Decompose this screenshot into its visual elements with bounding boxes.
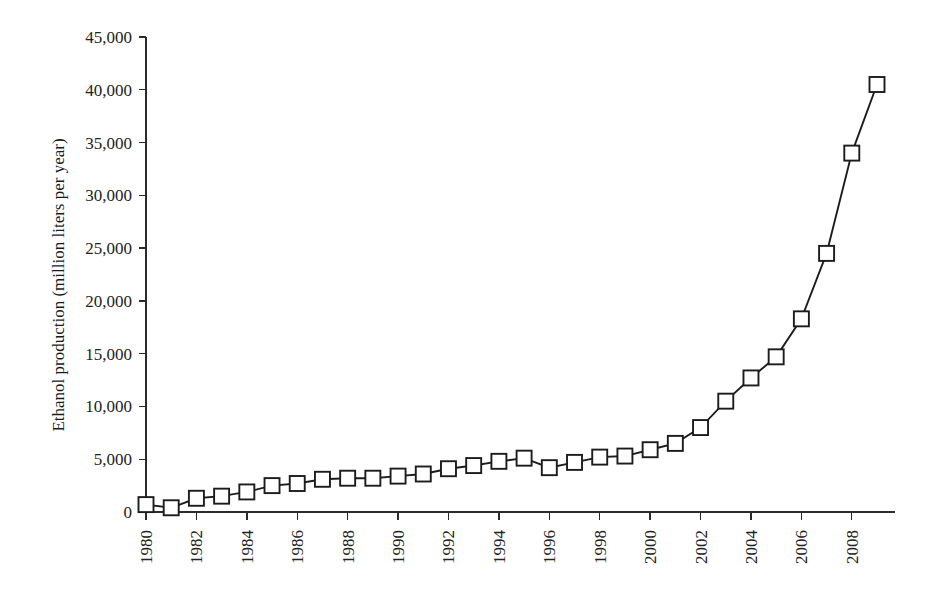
x-tick-label: 2006	[792, 530, 811, 564]
y-tick-label: 25,000	[85, 239, 132, 258]
x-tick-label: 1988	[339, 530, 358, 564]
data-point-marker	[870, 77, 885, 92]
x-tick-label: 1992	[439, 530, 458, 564]
data-point-marker	[239, 484, 254, 499]
x-tick-label: 1986	[288, 530, 307, 564]
data-point-marker	[139, 497, 154, 512]
y-tick-label: 40,000	[85, 81, 132, 100]
data-point-marker	[668, 436, 683, 451]
y-axis-title: Ethanol production (million liters per y…	[49, 138, 68, 431]
y-tick-label: 5,000	[94, 450, 132, 469]
data-point-marker	[643, 442, 658, 457]
data-point-marker	[794, 311, 809, 326]
x-tick-label: 1982	[187, 530, 206, 564]
x-tick-label: 2008	[843, 530, 862, 564]
data-series-line	[146, 85, 877, 508]
data-point-marker	[819, 246, 834, 261]
x-tick-label: 1998	[591, 530, 610, 564]
data-point-marker	[743, 370, 758, 385]
y-tick-label: 20,000	[85, 292, 132, 311]
y-axis-ticks: 05,00010,00015,00020,00025,00030,00035,0…	[85, 28, 146, 522]
data-point-marker	[592, 450, 607, 465]
x-tick-label: 2000	[641, 530, 660, 564]
y-tick-label: 0	[124, 503, 133, 522]
data-point-marker	[214, 489, 229, 504]
x-tick-label: 1996	[540, 530, 559, 564]
data-point-marker	[466, 458, 481, 473]
data-point-marker	[844, 146, 859, 161]
y-tick-label: 10,000	[85, 397, 132, 416]
x-tick-label: 2002	[692, 530, 711, 564]
data-point-marker	[769, 349, 784, 364]
data-point-marker	[189, 491, 204, 506]
data-point-marker	[617, 449, 632, 464]
data-point-marker	[391, 469, 406, 484]
x-tick-label: 1990	[389, 530, 408, 564]
data-point-marker	[365, 471, 380, 486]
y-tick-label: 15,000	[85, 345, 132, 364]
data-point-marker	[164, 500, 179, 515]
data-point-marker	[416, 467, 431, 482]
x-tick-label: 1994	[490, 530, 509, 565]
y-tick-label: 35,000	[85, 134, 132, 153]
data-point-marker	[340, 471, 355, 486]
y-tick-label: 45,000	[85, 28, 132, 47]
x-axis-ticks: 1980198219841986198819901992199419961998…	[137, 512, 862, 564]
data-point-marker	[441, 461, 456, 476]
data-point-marker	[491, 454, 506, 469]
data-point-marker	[567, 455, 582, 470]
y-axis-title-text: Ethanol production (million liters per y…	[49, 138, 68, 431]
x-tick-label: 1984	[238, 530, 257, 565]
x-tick-label: 1980	[137, 530, 156, 564]
data-point-marker	[693, 420, 708, 435]
data-point-marker	[718, 394, 733, 409]
ethanol-production-line-chart: Ethanol production (million liters per y…	[0, 0, 925, 597]
data-point-marker	[290, 476, 305, 491]
x-tick-label: 2004	[742, 530, 761, 565]
y-tick-label: 30,000	[85, 186, 132, 205]
data-point-markers	[139, 77, 885, 515]
data-point-marker	[542, 460, 557, 475]
chart-page: Ethanol production (million liters per y…	[0, 0, 925, 597]
data-point-marker	[265, 478, 280, 493]
data-point-marker	[517, 451, 532, 466]
data-point-marker	[315, 472, 330, 487]
